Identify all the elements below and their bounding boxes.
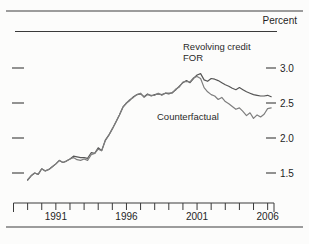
x-tick-label-1991: 1991 [39, 211, 73, 222]
bottom-divider-rule [6, 226, 303, 228]
y-tick-label-1.5: 1.5 [280, 168, 302, 179]
y-tick-label-2.5: 2.5 [280, 98, 302, 109]
series-line-revolving-credit-for [28, 74, 272, 180]
series-line-counterfactual [28, 76, 272, 180]
series-label-line2: FOR [183, 52, 251, 63]
series-label-revolving-credit-for: Revolving credit FOR [183, 41, 251, 63]
x-tick-label-2001: 2001 [180, 211, 214, 222]
chart-figure: Percent Revolving credit FOR Counterfact… [0, 0, 309, 244]
y-tick-label-3.0: 3.0 [280, 63, 302, 74]
series-label-counterfactual: Counterfactual [157, 111, 219, 122]
x-tick-label-1996: 1996 [109, 211, 143, 222]
y-tick-label-2.0: 2.0 [280, 133, 302, 144]
x-tick-label-2006: 2006 [251, 211, 285, 222]
line-chart-canvas [0, 0, 309, 244]
series-label-line1: Revolving credit [183, 41, 251, 52]
